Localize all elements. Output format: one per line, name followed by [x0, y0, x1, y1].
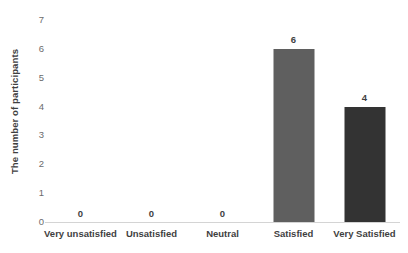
bar-chart: The number of participants 01234567 0006…	[0, 0, 408, 253]
x-axis-category-label: Very unsatisfied	[44, 228, 117, 239]
y-axis-tick-label: 6	[26, 44, 44, 54]
bar-value-label: 0	[78, 209, 83, 219]
bar-value-label: 6	[291, 35, 296, 45]
y-axis-tick-label: 0	[26, 217, 44, 227]
x-axis-baseline	[45, 222, 400, 223]
y-axis-title-text: The number of participants	[10, 48, 21, 173]
bar	[273, 49, 314, 222]
y-axis-tick-label: 4	[26, 102, 44, 112]
y-axis-tick-label: 5	[26, 73, 44, 83]
x-axis-category-label: Satisfied	[274, 228, 314, 239]
x-axis-category-label: Neutral	[206, 228, 239, 239]
plot-area: 00064	[45, 20, 400, 222]
y-axis-title: The number of participants	[4, 0, 26, 222]
bar-group: 0	[45, 20, 116, 222]
y-axis-tick-labels: 01234567	[26, 0, 44, 253]
bar-value-label: 4	[362, 93, 367, 103]
bar-group: 4	[329, 20, 400, 222]
y-axis-tick-label: 1	[26, 188, 44, 198]
y-axis-tick-label: 7	[26, 15, 44, 25]
bar-group: 0	[116, 20, 187, 222]
bar-value-label: 0	[149, 209, 154, 219]
x-axis-category-label: Very Satisfied	[333, 228, 395, 239]
x-axis-category-label: Unsatisfied	[126, 228, 177, 239]
bar-value-label: 0	[220, 209, 225, 219]
bar-group: 0	[187, 20, 258, 222]
y-axis-tick-label: 2	[26, 160, 44, 170]
x-axis-category-labels: Very unsatisfiedUnsatisfiedNeutralSatisf…	[45, 228, 400, 246]
y-axis-tick-label: 3	[26, 131, 44, 141]
bar	[344, 107, 385, 222]
bar-group: 6	[258, 20, 329, 222]
